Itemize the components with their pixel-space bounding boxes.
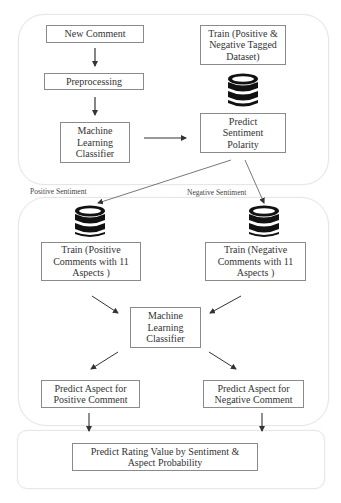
database-icon: [74, 205, 106, 239]
train-negative-aspects-box: Train (Negative Comments with 11 Aspects…: [205, 242, 306, 281]
new-comment-box: New Comment: [46, 25, 144, 43]
positive-sentiment-label: Positive Sentiment: [30, 187, 86, 196]
preprocessing-box: Preprocessing: [44, 73, 144, 90]
predict-aspect-positive-box: Predict Aspect for Positive Comment: [41, 380, 140, 408]
train-tagged-dataset-box: Train (Positive & Negative Tagged Datase…: [200, 25, 286, 65]
train-positive-aspects-box: Train (Positive Comments with 11 Aspects…: [41, 242, 141, 281]
aspect-ml-classifier-box: Machine Learning Classifier: [130, 307, 201, 348]
predict-sentiment-polarity-box: Predict Sentiment Polarity: [200, 113, 286, 153]
negative-sentiment-label: Negative Sentiment: [187, 188, 246, 197]
database-icon: [248, 205, 280, 239]
predict-aspect-negative-box: Predict Aspect for Negative Comment: [203, 380, 304, 408]
ml-classifier-box: Machine Learning Classifier: [60, 122, 130, 163]
database-icon: [227, 73, 259, 109]
predict-rating-box: Predict Rating Value by Sentiment & Aspe…: [72, 443, 258, 471]
